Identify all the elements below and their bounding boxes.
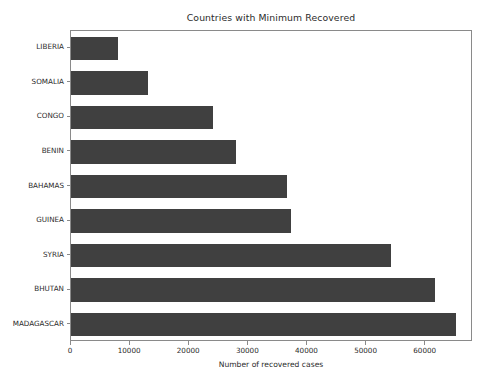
bar (71, 278, 435, 301)
x-tick-label: 30000 (236, 346, 259, 355)
y-tick-mark (67, 47, 71, 48)
x-tick-label: 60000 (413, 346, 436, 355)
bar (71, 209, 291, 232)
bar (71, 313, 456, 336)
bar (71, 37, 118, 60)
x-tick-mark (424, 341, 425, 345)
y-tick-mark (67, 254, 71, 255)
y-tick-label: GUINEA (36, 215, 64, 225)
y-tick-mark (67, 220, 71, 221)
y-tick-label: MADAGASCAR (13, 319, 64, 329)
bar (71, 71, 148, 94)
y-axis: LIBERIASOMALIACONGOBENINBAHAMASGUINEASYR… (0, 30, 70, 341)
y-tick-label: SOMALIA (32, 77, 64, 87)
x-tick-mark (365, 341, 366, 345)
x-tick-mark (306, 341, 307, 345)
bar (71, 244, 391, 267)
x-axis: Number of recovered cases 01000020000300… (70, 341, 472, 381)
y-tick-mark (67, 185, 71, 186)
y-tick-mark (67, 289, 71, 290)
y-tick-mark (67, 116, 71, 117)
x-tick-mark (188, 341, 189, 345)
bars-layer (71, 31, 471, 340)
y-tick-label: SYRIA (43, 250, 64, 260)
y-tick-mark (67, 323, 71, 324)
bar (71, 140, 236, 163)
y-tick-label: BAHAMAS (28, 181, 64, 191)
x-tick-mark (70, 341, 71, 345)
bar (71, 175, 287, 198)
x-tick-label: 40000 (295, 346, 318, 355)
y-tick-label: BENIN (42, 146, 64, 156)
y-tick-label: CONGO (37, 111, 64, 121)
chart-title: Countries with Minimum Recovered (70, 12, 472, 23)
x-tick-label: 0 (68, 346, 73, 355)
x-tick-label: 50000 (354, 346, 377, 355)
bar (71, 106, 213, 129)
y-tick-mark (67, 150, 71, 151)
x-tick-mark (247, 341, 248, 345)
y-tick-label: BHUTAN (34, 284, 64, 294)
y-tick-mark (67, 81, 71, 82)
x-tick-label: 20000 (177, 346, 200, 355)
y-tick-label: LIBERIA (36, 42, 64, 52)
x-tick-mark (129, 341, 130, 345)
chart-figure: Countries with Minimum Recovered LIBERIA… (0, 0, 492, 383)
x-tick-label: 10000 (118, 346, 141, 355)
plot-area (70, 30, 472, 341)
x-axis-label: Number of recovered cases (70, 360, 472, 369)
